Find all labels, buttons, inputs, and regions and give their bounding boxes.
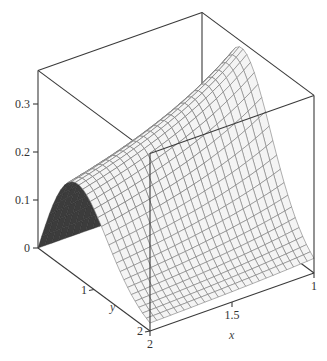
x-axis-label: x — [228, 328, 235, 342]
x-tick-label: 1 — [311, 279, 317, 293]
z-axis: 00.10.20.3 — [15, 97, 38, 255]
y-tick — [145, 331, 150, 332]
z-tick-label: 0 — [24, 241, 30, 255]
y-tick-label: 1 — [81, 283, 87, 297]
surface-mesh — [38, 47, 314, 323]
y-tick — [89, 290, 94, 291]
x-tick-label: 1.5 — [225, 308, 240, 322]
x-tick-label: 2 — [147, 337, 153, 351]
box-edge — [38, 12, 202, 70]
surface-plot: 00.10.20.3 12 11.52 y x — [0, 0, 327, 361]
y-axis-label: y — [109, 300, 116, 314]
z-tick-label: 0.3 — [15, 97, 30, 111]
z-tick-label: 0.2 — [15, 145, 30, 159]
y-tick-label: 2 — [137, 324, 143, 338]
z-tick-label: 0.1 — [15, 193, 30, 207]
